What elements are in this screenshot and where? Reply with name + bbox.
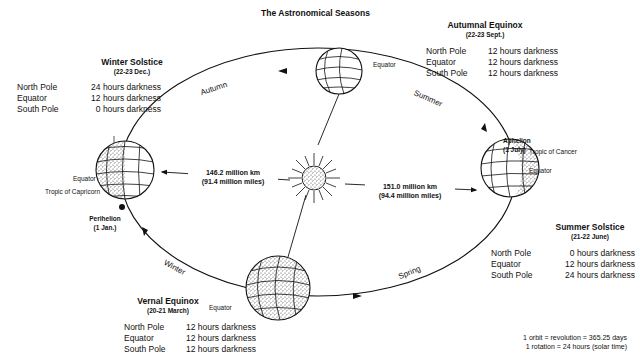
equator-label-winter: Equator xyxy=(73,175,96,182)
table-row: South Pole0 hours darkness xyxy=(17,104,161,115)
vernal-equinox-date: (20-21 March) xyxy=(118,307,218,314)
vernal-equinox-table: North Pole12 hours darkness Equator12 ho… xyxy=(124,322,256,355)
globe-vernal-equinox xyxy=(246,256,310,320)
table-row: South Pole12 hours darkness xyxy=(426,68,558,79)
aphelion-distance: 151.0 million km (94.4 million miles) xyxy=(365,182,455,200)
winter-solstice-name: Winter Solstice xyxy=(101,57,162,67)
rotation-fact: 1 rotation = 24 hours (solar time) xyxy=(523,342,627,351)
winter-solstice-date: (22-23 Dec.) xyxy=(72,68,192,75)
table-row: South Pole24 hours darkness xyxy=(491,270,635,281)
table-row: North Pole12 hours darkness xyxy=(426,46,558,57)
sun-icon xyxy=(288,153,340,203)
autumnal-equinox-header: Autumnal Equinox (22-23 Sept.) xyxy=(425,20,545,38)
table-row: Equator12 hours darkness xyxy=(426,57,558,68)
summer-solstice-header: Summer Solstice (21-22 June) xyxy=(540,222,640,240)
table-row: North Pole0 hours darkness xyxy=(491,248,635,259)
tropic-of-cancer-label: Tropic of Cancer xyxy=(529,148,577,155)
diagram-title: The Astronomical Seasons xyxy=(0,8,631,18)
table-row: North Pole12 hours darkness xyxy=(124,322,256,333)
equator-label-vernal: Equator xyxy=(209,304,232,311)
globe-autumnal-equinox xyxy=(316,48,362,94)
winter-solstice-table: North Pole24 hours darkness Equator12 ho… xyxy=(17,82,161,115)
orbit-facts: 1 orbit = revolution = 365.25 days 1 rot… xyxy=(523,333,627,351)
perihelion-label: Perihelion (1 Jan.) xyxy=(82,214,128,232)
table-row: Equator12 hours darkness xyxy=(491,259,635,270)
table-row: South Pole12 hours darkness xyxy=(124,344,256,355)
equator-label-autumnal: Equator xyxy=(373,61,396,68)
autumnal-equinox-date: (22-23 Sept.) xyxy=(425,31,545,38)
summer-solstice-table: North Pole0 hours darkness Equator12 hou… xyxy=(491,248,635,281)
table-row: North Pole24 hours darkness xyxy=(17,82,161,93)
tropic-of-capricorn-label: Tropic of Capricorn xyxy=(45,188,100,195)
table-row: Equator12 hours darkness xyxy=(124,333,256,344)
summer-solstice-name: Summer Solstice xyxy=(556,222,625,232)
autumnal-equinox-table: North Pole12 hours darkness Equator12 ho… xyxy=(426,46,558,79)
vernal-equinox-name: Vernal Equinox xyxy=(137,296,198,306)
orbit-fact: 1 orbit = revolution = 365.25 days xyxy=(523,333,627,342)
summer-solstice-date: (21-22 June) xyxy=(540,233,640,240)
perihelion-distance: 146.2 million km (91.4 million miles) xyxy=(188,168,278,186)
winter-solstice-header: Winter Solstice (22-23 Dec.) xyxy=(72,57,192,75)
equator-label-summer: Equator xyxy=(529,167,552,174)
autumnal-equinox-name: Autumnal Equinox xyxy=(447,20,522,30)
table-row: Equator12 hours darkness xyxy=(17,93,161,104)
perihelion-dot xyxy=(119,204,125,210)
vernal-equinox-header: Vernal Equinox (20-21 March) xyxy=(118,296,218,314)
